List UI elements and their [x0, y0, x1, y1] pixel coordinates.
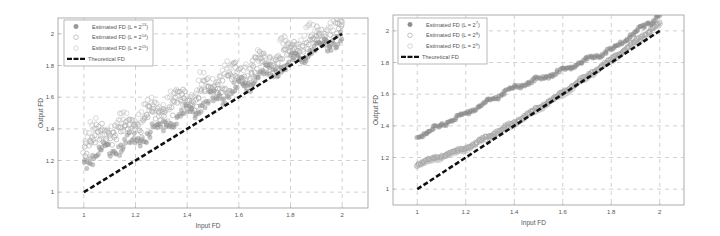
x-tick-label: 1.6 — [235, 212, 244, 218]
legend: Estimated FD (L = 213)Estimated FD (L = … — [64, 20, 153, 66]
y-tick-label: 1 — [51, 189, 55, 195]
legend-entry-label: Estimated FD (L = 214) — [92, 33, 148, 40]
legend-entry-label: Estimated FD (L = 215) — [92, 44, 148, 51]
x-tick-label: 1.6 — [559, 209, 568, 215]
x-tick-label: 1.4 — [510, 209, 519, 215]
chart-right: 11.21.41.61.8211.21.41.61.82Input FDOutp… — [370, 0, 720, 236]
chart-left: 11.21.41.61.8211.21.41.61.82Input FDOutp… — [0, 0, 370, 236]
legend-entry-label: Theoretical FD — [422, 54, 459, 60]
legend-filled-circle-icon — [408, 22, 412, 26]
y-tick-label: 1.4 — [46, 126, 55, 132]
x-tick-label: 1.4 — [183, 212, 192, 218]
y-axis-label: Output FD — [37, 98, 45, 128]
x-axis-label: Input FD — [521, 219, 546, 227]
x-axis-label: Input FD — [196, 222, 221, 230]
y-tick-label: 2 — [51, 31, 55, 37]
x-tick-label: 1.2 — [462, 209, 471, 215]
legend-entry-label: Estimated FD (L = 29) — [426, 42, 480, 49]
legend-entry-label: Theoretical FD — [88, 56, 125, 62]
x-tick-label: 1 — [82, 212, 86, 218]
y-tick-label: 1.6 — [381, 91, 390, 97]
y-tick-label: 1 — [386, 186, 390, 192]
x-tick-label: 1.8 — [607, 209, 616, 215]
x-tick-label: 1.2 — [131, 212, 140, 218]
chart-right-panel: 11.21.41.61.8211.21.41.61.82Input FDOutp… — [370, 0, 720, 236]
y-tick-label: 1.2 — [46, 158, 55, 164]
y-tick-label: 1.6 — [46, 94, 55, 100]
legend-entry-label: Estimated FD (L = 27) — [426, 20, 480, 27]
chart-left-panel: 11.21.41.61.8211.21.41.61.82Input FDOutp… — [0, 0, 370, 236]
legend-entry-label: Estimated FD (L = 28) — [426, 31, 480, 38]
legend: Estimated FD (L = 27)Estimated FD (L = 2… — [398, 18, 487, 64]
y-tick-label: 2 — [386, 28, 390, 34]
legend-entry-label: Estimated FD (L = 213) — [92, 22, 148, 29]
x-tick-label: 2 — [340, 212, 344, 218]
y-axis-label: Output FD — [372, 95, 380, 125]
y-tick-label: 1.8 — [46, 63, 55, 69]
y-tick-label: 1.4 — [381, 123, 390, 129]
x-tick-label: 1.8 — [286, 212, 295, 218]
y-tick-label: 1.2 — [381, 155, 390, 161]
x-tick-label: 2 — [658, 209, 662, 215]
legend-filled-circle-icon — [74, 24, 78, 28]
x-tick-label: 1 — [416, 209, 420, 215]
y-tick-label: 1.8 — [381, 60, 390, 66]
